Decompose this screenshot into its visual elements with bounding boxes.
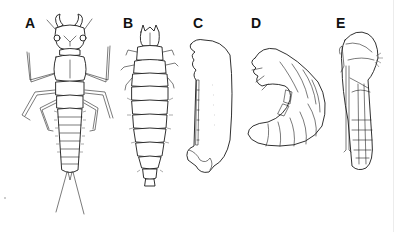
specimen-e-drawing — [339, 32, 383, 170]
scan-speck — [4, 197, 6, 199]
specimen-c-drawing — [187, 40, 232, 173]
larval-types-figure: A B C D E — [0, 0, 405, 232]
drawings — [0, 0, 405, 232]
specimen-b-drawing — [121, 25, 178, 186]
scan-edge-line — [393, 0, 394, 232]
specimen-a-drawing — [22, 14, 113, 214]
specimen-d-drawing — [248, 48, 325, 146]
